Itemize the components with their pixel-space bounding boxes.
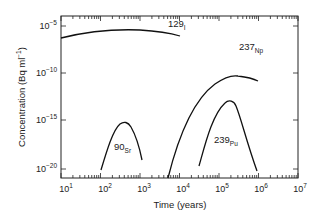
y-tick-label: 10−5 <box>40 19 58 31</box>
y-tick-label: 10−20 <box>36 162 57 174</box>
curve-237Np <box>168 76 258 178</box>
x-tick-labels: 101 102 103 104 105 106 107 <box>59 182 307 194</box>
y-tick-label: 10−10 <box>36 66 57 78</box>
label-237Np: 237Np <box>239 41 264 55</box>
label-129I: 129I <box>168 18 186 31</box>
x-ticks <box>61 16 298 178</box>
y-axis-title: Concentration (Bq ml−1) <box>15 47 27 147</box>
y-tick-label: 10−15 <box>36 113 57 125</box>
label-90Sr: 90Sr <box>114 141 132 154</box>
x-tick-label: 101 <box>59 182 73 194</box>
x-tick-label: 103 <box>137 182 151 194</box>
chart: 10−5 10−10 10−15 10−20 101 102 103 104 1… <box>0 0 317 219</box>
x-tick-label: 107 <box>293 182 307 194</box>
x-tick-label: 106 <box>254 182 268 194</box>
x-axis-title: Time (years) <box>154 199 207 210</box>
curve-129I <box>61 30 180 38</box>
y-tick-labels: 10−5 10−10 10−15 10−20 <box>36 19 57 174</box>
plot-frame <box>61 16 298 178</box>
label-239Pu: 239Pu <box>214 134 238 147</box>
x-tick-label: 105 <box>215 182 229 194</box>
x-tick-label: 104 <box>176 182 190 194</box>
x-tick-label: 102 <box>98 182 112 194</box>
